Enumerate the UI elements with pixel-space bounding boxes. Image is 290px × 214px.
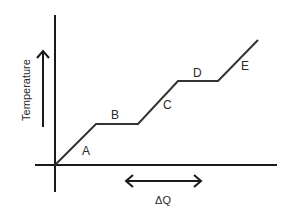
- delta-q-double-arrow-icon: [126, 175, 201, 187]
- x-axis-label: ΔQ: [155, 194, 171, 206]
- segment-label-c: C: [163, 98, 172, 112]
- segment-label-b: B: [111, 108, 119, 122]
- segment-label-d: D: [193, 66, 202, 80]
- y-axis-label: Temperature: [20, 59, 32, 121]
- heating-curve-diagram: Temperature A B C D E ΔQ: [0, 0, 290, 214]
- segment-label-e: E: [241, 59, 249, 73]
- segment-label-a: A: [82, 144, 90, 158]
- temperature-arrow-icon: [37, 51, 49, 127]
